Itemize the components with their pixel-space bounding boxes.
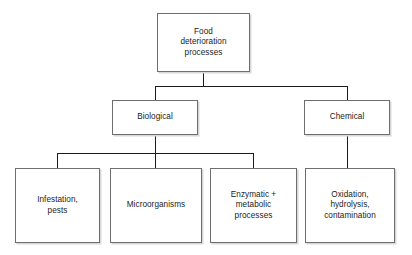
node-label: Enzymatic + metabolic processes	[228, 190, 279, 221]
node-microorganisms: Microorganisms	[110, 168, 202, 243]
node-label: Infestation, pests	[34, 195, 81, 216]
connector-level2-bus	[155, 86, 349, 87]
node-food-deterioration-processes: Food deterioration processes	[157, 13, 250, 72]
node-enzymatic-metabolic-processes: Enzymatic + metabolic processes	[210, 168, 297, 243]
node-oxidation-hydrolysis-contamination: Oxidation, hydrolysis, contamination	[305, 168, 395, 243]
connector-drop-infestation	[57, 153, 58, 169]
connector-drop-biological	[155, 86, 156, 101]
connector-drop-chemical	[347, 86, 348, 101]
node-label: Food deterioration processes	[177, 27, 229, 58]
node-label: Chemical	[327, 112, 368, 122]
connector-root-stem	[203, 72, 204, 87]
connector-drop-enzymatic	[253, 153, 254, 169]
connector-drop-microorganisms	[155, 153, 156, 169]
node-infestation-pests: Infestation, pests	[15, 168, 100, 243]
connector-chemical-stem	[347, 135, 348, 168]
node-chemical: Chemical	[304, 100, 390, 135]
node-label: Oxidation, hydrolysis, contamination	[321, 190, 379, 221]
node-label: Microorganisms	[124, 200, 188, 210]
connector-biological-stem	[155, 135, 156, 154]
node-biological: Biological	[112, 100, 198, 135]
node-label: Biological	[134, 112, 176, 122]
diagram-canvas: Food deterioration processes Biological …	[0, 0, 412, 255]
